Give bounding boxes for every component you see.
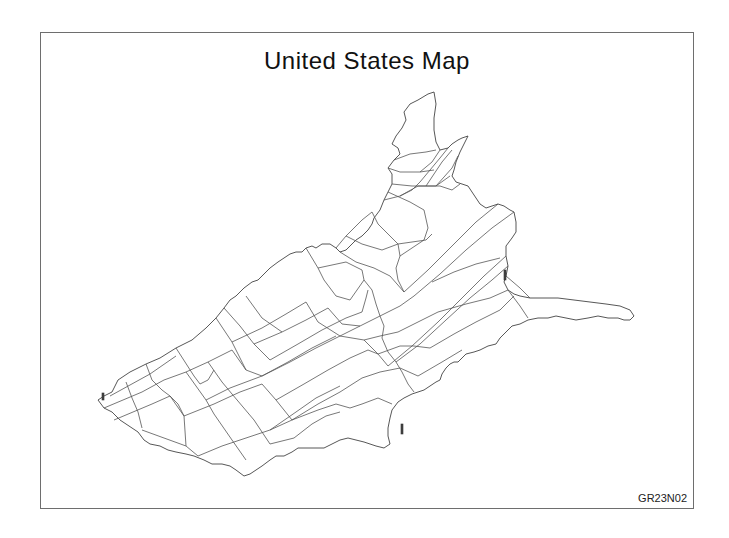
chesapeake-bay bbox=[504, 270, 506, 280]
state-boundaries bbox=[104, 148, 530, 460]
country-outline bbox=[98, 92, 634, 476]
galveston-bay bbox=[401, 424, 403, 434]
us-map bbox=[0, 0, 729, 538]
puget-sound bbox=[102, 393, 104, 400]
